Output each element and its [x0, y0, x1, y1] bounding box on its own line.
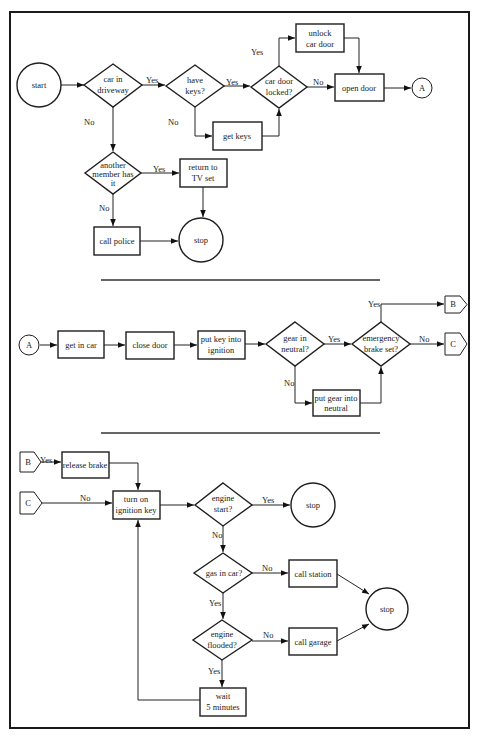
node-label: car door	[265, 76, 293, 86]
process-get-in-car: get in car	[58, 331, 104, 358]
connector-a: A	[19, 335, 39, 355]
edge-unlock-to-open	[344, 38, 359, 73]
process-close-door: close door	[126, 332, 174, 359]
node-label: ignition	[208, 345, 235, 355]
node-label: wait	[216, 691, 231, 701]
node-stop-fail: stop	[366, 588, 408, 630]
node-label: neutral	[324, 403, 348, 413]
edge-gear-no	[295, 366, 312, 403]
node-label: stop	[380, 604, 394, 614]
node-label: A	[26, 340, 33, 350]
node-label: engine	[211, 629, 234, 639]
node-label: start?	[214, 504, 233, 514]
node-label: stop	[194, 235, 208, 245]
edge-garage-to-stop	[337, 624, 369, 641]
node-label: close door	[132, 340, 167, 350]
node-label: have	[187, 75, 203, 85]
node-start: start	[17, 63, 61, 107]
edge-label-no: No	[263, 630, 273, 640]
decision-another-member: another member has it	[85, 152, 141, 194]
node-stop-success: stop	[291, 483, 335, 527]
node-label: 5 minutes	[206, 702, 239, 712]
edge-brake-yes	[381, 304, 444, 322]
decision-engine-flooded: engine flooded?	[193, 620, 252, 660]
process-release-brake: release brake	[62, 452, 109, 478]
process-wait-5-minutes: wait 5 minutes	[200, 688, 246, 716]
edge-label-no: No	[168, 117, 178, 127]
edge-label-yes: Yes	[209, 598, 221, 608]
node-label: it	[111, 178, 116, 188]
section-2: A get in car close door put key into ign…	[19, 296, 467, 416]
edge-label-yes: Yes	[328, 334, 340, 344]
offpage-connector-b: B	[20, 452, 41, 472]
node-label: stop	[306, 500, 320, 510]
node-label: get keys	[223, 131, 251, 141]
node-label: release brake	[63, 460, 108, 470]
edge-label-no: No	[212, 530, 222, 540]
offpage-connector-c: C	[20, 492, 42, 514]
node-label: locked?	[266, 87, 293, 97]
decision-car-door-locked: car door locked?	[251, 66, 307, 108]
edge-label-yes: Yes	[251, 47, 263, 57]
node-label: car door	[306, 39, 334, 49]
edge-locked-yes	[279, 38, 295, 66]
process-get-keys: get keys	[213, 122, 262, 150]
edge-label-no: No	[99, 203, 109, 213]
node-label: start	[32, 80, 47, 90]
offpage-connector-c: C	[445, 333, 467, 355]
node-label: call station	[294, 569, 332, 579]
edge-release-to-ignition	[109, 463, 138, 490]
node-label: ignition key	[116, 505, 158, 515]
edge-label-yes: Yes	[368, 299, 380, 309]
node-label: engine	[212, 493, 235, 503]
process-turn-on-ignition-key: turn on ignition key	[113, 491, 160, 519]
node-label: brake set?	[364, 344, 398, 354]
edge-wait-to-ignition	[138, 520, 200, 700]
node-label: neutral?	[281, 344, 309, 354]
process-put-gear-into-neutral: put gear into neutral	[313, 390, 360, 416]
decision-engine-start: engine start?	[195, 483, 252, 526]
edge-label-no: No	[262, 563, 272, 573]
flowchart: start car in driveway have keys? car doo…	[0, 0, 483, 740]
node-label: get in car	[65, 340, 97, 350]
edge-label-yes: Yes	[208, 666, 220, 676]
node-label: return to	[188, 162, 217, 172]
edge-label-yes: Yes	[262, 495, 274, 505]
edge-putgear-to-brake	[360, 367, 381, 403]
node-label: car in	[103, 74, 123, 84]
node-label: keys?	[185, 86, 205, 96]
node-label: gas in car?	[206, 568, 243, 578]
edge-label-no: No	[84, 117, 94, 127]
node-label: turn on	[124, 494, 149, 504]
section-3: B C release brake turn on ignition key e…	[20, 452, 408, 716]
process-call-station: call station	[289, 560, 337, 587]
edge-label-yes: Yes	[226, 77, 238, 87]
node-label: flooded?	[207, 640, 237, 650]
edge-station-to-stop	[337, 574, 369, 594]
decision-car-in-driveway: car in driveway	[84, 64, 142, 107]
edge-label-yes: Yes	[40, 455, 52, 465]
node-label: put key into	[201, 334, 242, 344]
decision-emergency-brake-set: emergency brake set?	[352, 322, 410, 366]
node-label: TV set	[192, 173, 215, 183]
process-call-garage: call garage	[289, 628, 337, 655]
decision-gear-in-neutral: gear in neutral?	[266, 322, 324, 366]
node-label: C	[25, 498, 31, 508]
node-label: C	[450, 339, 456, 349]
edge-getkeys-to-locked	[262, 109, 279, 136]
node-stop: stop	[179, 218, 223, 262]
node-label: driveway	[97, 85, 129, 95]
node-label: call police	[99, 236, 134, 246]
process-call-police: call police	[94, 227, 140, 255]
decision-have-keys: have keys?	[166, 65, 224, 107]
process-return-to-tv: return to TV set	[180, 159, 227, 187]
edge-label-yes: Yes	[146, 75, 158, 85]
node-label: A	[419, 83, 426, 93]
node-label: gear in	[283, 333, 307, 343]
process-put-key-into-ignition: put key into ignition	[198, 331, 245, 359]
edge-label-no: No	[284, 378, 294, 388]
node-label: B	[450, 299, 456, 309]
process-unlock-car-door: unlock car door	[296, 24, 344, 52]
decision-gas-in-car: gas in car?	[194, 553, 252, 593]
edge-label-yes: Yes	[153, 164, 165, 174]
